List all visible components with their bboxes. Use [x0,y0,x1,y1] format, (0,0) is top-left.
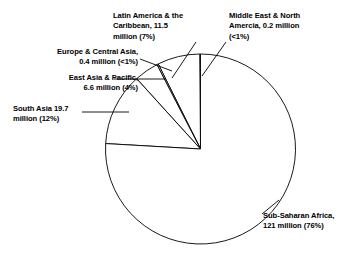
pie-label-europe-central-asia: Europe & Central Asia, 0.4 million (<1%) [28,47,138,68]
pie-label-south-asia: South Asia 19.7 million (12%) [13,104,113,125]
pie-label-latin-america: Latin America & the Caribbean, 11.5 mill… [113,11,197,42]
pie-label-middle-east: Middle East & North Amercia, 0.2 million… [229,11,321,42]
pie-label-east-asia-pacific: East Asia & Pacific, 6.6 million (4%) [26,73,138,94]
pie-label-sub-saharan-africa: Sub-Saharan Africa, 121 million (76%) [263,211,359,232]
pie-chart: Latin America & the Caribbean, 11.5 mill… [0,0,361,256]
